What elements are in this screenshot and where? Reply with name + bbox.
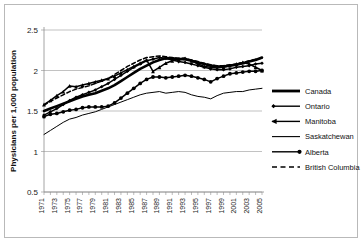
x-tick-label: 1991 xyxy=(166,198,173,214)
data-series-group xyxy=(42,56,264,135)
data-point-marker xyxy=(81,106,85,110)
data-point-marker xyxy=(241,65,245,69)
x-tick-label: 1997 xyxy=(205,198,212,214)
data-point-marker xyxy=(61,110,65,114)
y-axis-title-label: Physicians per 1,000 population xyxy=(9,50,18,172)
x-axis xyxy=(44,192,264,195)
data-point-marker xyxy=(228,67,232,71)
data-point-marker xyxy=(68,108,72,112)
data-point-marker xyxy=(183,73,187,77)
data-point-marker xyxy=(100,105,104,109)
data-point-marker xyxy=(106,104,110,108)
chart-screenshot: 0.511.522.5 1971197319751977197919811983… xyxy=(0,0,364,246)
y-axis xyxy=(41,27,44,192)
data-point-marker xyxy=(158,75,162,79)
x-tick-label: 1993 xyxy=(179,198,186,214)
data-point-marker xyxy=(132,86,136,90)
chart-legend: CanadaOntarioManitobaSaskatchewanAlberta… xyxy=(271,87,360,172)
data-point-marker xyxy=(138,82,142,86)
x-tick-label: 1975 xyxy=(64,198,71,214)
legend-circle-marker-icon xyxy=(297,150,301,154)
data-point-marker xyxy=(190,74,194,78)
x-tick-labels: 1971197319751977197919811983198519871989… xyxy=(38,198,263,214)
legend-label: Ontario xyxy=(305,102,330,111)
data-point-marker xyxy=(241,70,245,74)
data-point-marker xyxy=(119,96,123,100)
data-point-marker xyxy=(55,112,59,116)
x-tick-label: 1981 xyxy=(102,198,109,214)
data-point-marker xyxy=(215,77,219,81)
data-point-marker xyxy=(151,75,155,79)
legend-label: Canada xyxy=(305,87,332,96)
x-tick-label: 1999 xyxy=(218,198,225,214)
legend-item-alberta[interactable]: Alberta xyxy=(272,148,330,157)
x-tick-label: 1977 xyxy=(76,198,83,214)
data-point-marker xyxy=(190,62,194,66)
data-point-marker xyxy=(177,74,181,78)
data-point-marker xyxy=(228,72,232,76)
data-point-marker xyxy=(209,80,213,84)
data-point-marker xyxy=(222,74,226,78)
data-point-marker xyxy=(74,107,78,111)
data-point-marker xyxy=(87,105,91,109)
y-axis-title: Physicians per 1,000 population xyxy=(9,50,18,172)
line-chart: 0.511.522.5 1971197319751977197919811983… xyxy=(0,0,364,246)
x-tick-label: 2003 xyxy=(243,198,250,214)
legend-label: Alberta xyxy=(305,148,330,157)
x-tick-label: 1971 xyxy=(38,198,45,214)
x-tick-label: 1979 xyxy=(89,198,96,214)
x-tick-label: 1989 xyxy=(153,198,160,214)
y-tick-label: 0.5 xyxy=(27,188,39,197)
x-tick-label: 1987 xyxy=(141,198,148,214)
data-point-marker xyxy=(196,76,200,80)
data-point-marker xyxy=(247,69,251,73)
x-tick-label: 1985 xyxy=(128,198,135,214)
series-saskatchewan xyxy=(44,88,262,134)
data-point-marker xyxy=(260,69,264,73)
data-point-marker xyxy=(151,57,155,61)
data-point-marker xyxy=(260,61,264,65)
legend-item-british-columbia[interactable]: British Columbia xyxy=(272,163,360,172)
data-point-marker xyxy=(145,78,149,82)
data-point-marker xyxy=(113,101,117,105)
data-point-marker xyxy=(254,62,258,66)
data-point-marker xyxy=(183,61,187,65)
data-point-marker xyxy=(125,91,129,95)
y-tick-label: 2 xyxy=(34,67,39,76)
data-point-marker xyxy=(234,71,238,75)
y-tick-label: 2.5 xyxy=(27,26,39,35)
y-tick-label: 1 xyxy=(34,148,39,157)
data-point-marker xyxy=(93,105,97,109)
data-point-marker xyxy=(202,78,206,82)
data-point-marker xyxy=(49,112,53,116)
legend-label: Manitoba xyxy=(305,117,337,126)
x-tick-label: 1973 xyxy=(51,198,58,214)
data-point-marker xyxy=(42,115,46,119)
legend-item-canada[interactable]: Canada xyxy=(272,87,332,96)
x-tick-label: 1995 xyxy=(192,198,199,214)
x-tick-label: 2001 xyxy=(230,198,237,214)
data-point-marker xyxy=(170,75,174,79)
legend-item-saskatchewan[interactable]: Saskatchewan xyxy=(272,132,354,141)
legend-label: British Columbia xyxy=(305,163,360,172)
x-tick-label: 2005 xyxy=(256,198,263,214)
legend-item-ontario[interactable]: Ontario xyxy=(271,102,329,111)
legend-label: Saskatchewan xyxy=(305,132,354,141)
x-tick-label: 1983 xyxy=(115,198,122,214)
legend-item-manitoba[interactable]: Manitoba xyxy=(271,117,336,126)
y-tick-labels: 0.511.522.5 xyxy=(27,26,39,197)
data-point-marker xyxy=(254,69,258,73)
data-point-marker xyxy=(164,76,168,80)
series-line xyxy=(44,88,262,134)
legend-diamond-marker-icon xyxy=(271,104,275,108)
y-tick-label: 1.5 xyxy=(27,107,39,116)
legend-triangle-marker-icon xyxy=(271,119,276,124)
